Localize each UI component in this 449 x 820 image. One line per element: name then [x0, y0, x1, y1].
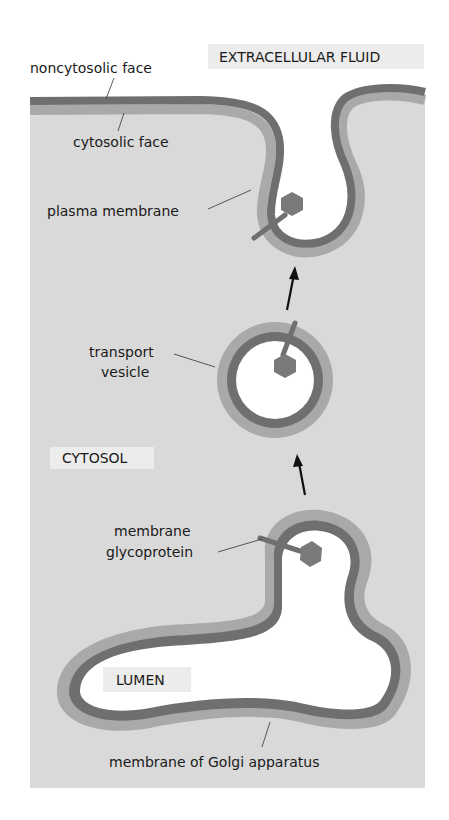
lumen-label: LUMEN	[116, 672, 165, 688]
transport-vesicle-label-line1: transport	[89, 344, 154, 360]
cytosol-label: CYTOSOL	[62, 450, 128, 466]
plasma-membrane-label: plasma membrane	[47, 203, 179, 219]
glycoprotein-label-line1: membrane	[114, 523, 191, 539]
glycoprotein-label-line2: glycoprotein	[106, 544, 193, 560]
cytosolic-face-label: cytosolic face	[73, 134, 169, 150]
golgi-transport-diagram: EXTRACELLULAR FLUID CYTOSOL LUMEN noncyt…	[0, 0, 449, 820]
extracellular-label: EXTRACELLULAR FLUID	[219, 49, 380, 65]
noncytosolic-face-label: noncytosolic face	[30, 60, 152, 76]
transport-vesicle-label-line2: vesicle	[101, 364, 149, 380]
transport-vesicle-lumen	[236, 341, 314, 419]
golgi-membrane-label: membrane of Golgi apparatus	[109, 754, 319, 770]
